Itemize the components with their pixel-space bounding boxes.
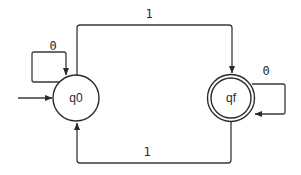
transition-qf-self-loop: 0 bbox=[252, 64, 285, 114]
transition-label: 1 bbox=[143, 145, 150, 159]
state-qf-accepting: qf bbox=[208, 75, 255, 122]
transition-label: 0 bbox=[49, 39, 56, 53]
state-label: qf bbox=[226, 91, 237, 105]
transition-label: 1 bbox=[145, 7, 152, 21]
state-label: q0 bbox=[69, 91, 83, 105]
transition-qf-to-q0: 1 bbox=[77, 122, 231, 163]
transition-q0-self-loop: 0 bbox=[32, 39, 66, 82]
automaton-diagram: 0 1 1 0 q0 qf bbox=[0, 0, 301, 175]
state-q0: q0 bbox=[53, 75, 99, 121]
transition-q0-to-qf: 1 bbox=[77, 7, 232, 75]
transition-label: 0 bbox=[262, 64, 269, 78]
